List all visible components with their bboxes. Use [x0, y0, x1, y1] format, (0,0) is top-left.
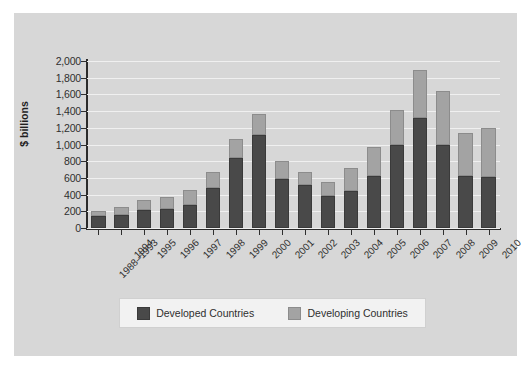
y-axis-tick-label: 1,600 [56, 88, 81, 100]
chart-legend: Developed Countries Developing Countries [119, 298, 426, 328]
bar-segment-developed[interactable] [160, 209, 174, 228]
x-axis-tick-mark [167, 230, 168, 235]
legend-item-developed: Developed Countries [137, 307, 254, 320]
bar-group[interactable] [137, 200, 151, 228]
bar-group[interactable] [206, 172, 220, 228]
y-axis-tick-mark [81, 78, 86, 79]
bar-segment-developed[interactable] [344, 191, 358, 228]
x-axis-tick-mark [98, 230, 99, 235]
bar-segment-developing[interactable] [413, 70, 427, 118]
x-axis-tick-label: 2001 [293, 237, 317, 261]
bar-group[interactable] [413, 70, 427, 228]
bar-segment-developing[interactable] [458, 133, 472, 176]
y-axis-tick-label: 200 [64, 205, 81, 217]
y-axis-tick-labels: 2,0001,8001,6001,4001,2001,0008006004002… [14, 13, 81, 356]
x-axis-tick-mark [328, 230, 329, 235]
y-axis-tick-label: 1,800 [56, 72, 81, 84]
bar-segment-developing[interactable] [436, 91, 450, 145]
x-axis-tick-label: 2005 [384, 237, 408, 261]
bar-group[interactable] [367, 147, 381, 228]
x-axis-tick-mark [420, 230, 421, 235]
bar-group[interactable] [436, 91, 450, 228]
x-axis-tick-label: 2004 [361, 237, 385, 261]
bar-group[interactable] [91, 211, 105, 228]
x-axis-tick-label: 2009 [476, 237, 500, 261]
bar-segment-developing[interactable] [321, 182, 335, 197]
bar-segment-developing[interactable] [160, 197, 174, 209]
bar-segment-developing[interactable] [252, 114, 266, 135]
y-axis-tick-mark [81, 178, 86, 179]
y-axis-title: $ billions [18, 69, 30, 179]
bar-segment-developing[interactable] [298, 172, 312, 185]
bar-segment-developed[interactable] [252, 135, 266, 228]
y-axis-tick-mark [81, 195, 86, 196]
y-axis-tick-mark [81, 111, 86, 112]
bar-segment-developing[interactable] [481, 128, 495, 177]
bar-segment-developing[interactable] [390, 110, 404, 145]
bar-segment-developing[interactable] [275, 161, 289, 179]
bar-segment-developed[interactable] [367, 176, 381, 228]
bar-segment-developed[interactable] [298, 185, 312, 228]
bar-segment-developed[interactable] [321, 196, 335, 228]
legend-swatch-developing-icon [288, 307, 301, 320]
bar-group[interactable] [229, 139, 243, 228]
bar-segment-developing[interactable] [229, 139, 243, 158]
y-axis-tick-label: 2,000 [56, 55, 81, 67]
chart-figure: 2,0001,8001,6001,4001,2001,0008006004002… [14, 13, 517, 356]
bar-group[interactable] [275, 161, 289, 228]
bar-segment-developed[interactable] [413, 118, 427, 228]
x-axis-tick-label: 1997 [201, 237, 225, 261]
bar-segment-developed[interactable] [91, 216, 105, 228]
bar-group[interactable] [321, 182, 335, 228]
bar-segment-developed[interactable] [390, 145, 404, 229]
x-axis-tick-mark [443, 230, 444, 235]
x-axis-tick-label: 1999 [247, 237, 271, 261]
gridline [87, 78, 500, 79]
x-axis-tick-label: 2002 [315, 237, 339, 261]
bar-segment-developing[interactable] [367, 147, 381, 177]
y-axis-tick-label: 1,000 [56, 139, 81, 151]
bar-group[interactable] [481, 128, 495, 228]
bar-segment-developing[interactable] [183, 190, 197, 205]
bar-segment-developed[interactable] [137, 210, 151, 228]
legend-swatch-developed-icon [137, 307, 150, 320]
bar-group[interactable] [344, 168, 358, 228]
x-axis-tick-label: 2007 [430, 237, 454, 261]
x-axis-tick-mark [351, 230, 352, 235]
bar-segment-developing[interactable] [114, 207, 128, 215]
y-axis-tick-label: 400 [64, 189, 81, 201]
y-axis-tick-mark [81, 228, 86, 229]
bar-group[interactable] [390, 110, 404, 228]
legend-item-developing: Developing Countries [288, 307, 407, 320]
gridline [87, 61, 500, 62]
bar-group[interactable] [114, 207, 128, 228]
bar-segment-developed[interactable] [183, 205, 197, 228]
x-axis-tick-label: 2006 [407, 237, 431, 261]
bar-segment-developing[interactable] [137, 200, 151, 210]
y-axis-tick-mark [81, 145, 86, 146]
bar-segment-developed[interactable] [275, 179, 289, 228]
bar-group[interactable] [458, 133, 472, 228]
bar-segment-developed[interactable] [229, 158, 243, 228]
bar-group[interactable] [160, 197, 174, 228]
x-axis-tick-label: 1998 [224, 237, 248, 261]
x-axis-tick-mark [305, 230, 306, 235]
bar-group[interactable] [298, 172, 312, 228]
x-axis-tick-mark [282, 230, 283, 235]
x-axis-tick-mark [144, 230, 145, 235]
bar-group[interactable] [183, 190, 197, 228]
bar-segment-developing[interactable] [344, 168, 358, 191]
bar-segment-developing[interactable] [206, 172, 220, 188]
bar-segment-developed[interactable] [206, 188, 220, 228]
x-axis-tick-mark [374, 230, 375, 235]
bar-segment-developed[interactable] [481, 177, 495, 228]
bar-segment-developed[interactable] [458, 176, 472, 228]
x-axis-tick-label: 2000 [270, 237, 294, 261]
y-axis-tick-mark [81, 211, 86, 212]
x-axis-tick-mark [121, 230, 122, 235]
bar-segment-developed[interactable] [436, 145, 450, 228]
bar-group[interactable] [252, 114, 266, 228]
bar-segment-developed[interactable] [114, 215, 128, 228]
plot-area [87, 61, 500, 228]
x-axis-tick-mark [236, 230, 237, 235]
